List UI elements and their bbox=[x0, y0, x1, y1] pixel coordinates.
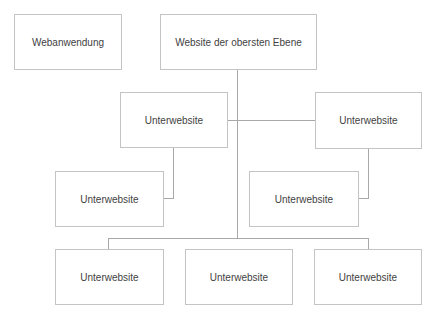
connector-mid-right-down bbox=[368, 148, 369, 199]
connector-mid-left-to-lower-left bbox=[163, 198, 174, 199]
node-label: Unterwebsite bbox=[145, 115, 203, 126]
node-label: Webanwendung bbox=[32, 37, 104, 48]
node-subsite-mid-right: Unterwebsite bbox=[315, 92, 422, 149]
connector-bottom-bus bbox=[108, 238, 369, 239]
node-subsite-bottom-3: Unterwebsite bbox=[314, 249, 422, 305]
node-label: Unterwebsite bbox=[275, 194, 333, 205]
node-subsite-lower-right: Unterwebsite bbox=[249, 171, 359, 227]
connector-bottom-3 bbox=[368, 238, 369, 249]
node-label: Unterwebsite bbox=[80, 194, 138, 205]
connector-mid-row bbox=[227, 120, 315, 121]
node-subsite-bottom-2: Unterwebsite bbox=[185, 249, 293, 305]
node-subsite-lower-left: Unterwebsite bbox=[55, 171, 164, 227]
connector-bottom-1 bbox=[108, 238, 109, 249]
connector-mid-left-down bbox=[173, 147, 174, 199]
node-label: Website der obersten Ebene bbox=[175, 37, 302, 48]
node-web-app: Webanwendung bbox=[14, 14, 122, 70]
node-label: Unterwebsite bbox=[339, 115, 397, 126]
connector-mid-right-to-lower-right bbox=[358, 198, 369, 199]
node-subsite-bottom-1: Unterwebsite bbox=[55, 249, 164, 305]
node-label: Unterwebsite bbox=[210, 272, 268, 283]
node-subsite-mid-left: Unterwebsite bbox=[120, 92, 228, 148]
node-label: Unterwebsite bbox=[339, 272, 397, 283]
node-label: Unterwebsite bbox=[80, 272, 138, 283]
node-top-level-site: Website der obersten Ebene bbox=[160, 14, 317, 70]
connector-top-trunk bbox=[237, 69, 238, 239]
